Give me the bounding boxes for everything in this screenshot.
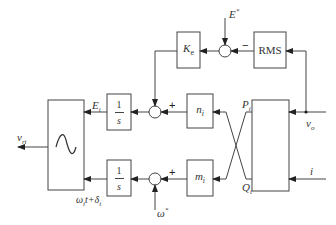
sum-top bbox=[219, 45, 231, 57]
e-ref-label: E* bbox=[229, 8, 239, 20]
p-i-label: Pi bbox=[242, 99, 251, 113]
int-bottom-den: s bbox=[117, 181, 121, 192]
power-calc-block bbox=[252, 100, 289, 191]
n-block: ni bbox=[187, 94, 213, 128]
minus-sign: − bbox=[242, 40, 248, 51]
m-block: mi bbox=[187, 160, 213, 196]
phase-label: ωit+δi bbox=[76, 195, 101, 208]
rms-label: RMS bbox=[258, 44, 281, 56]
m-sub: i bbox=[203, 177, 205, 186]
m-label: m bbox=[195, 170, 203, 182]
i-label: i bbox=[310, 166, 313, 177]
integrator-bottom: 1 s bbox=[107, 160, 131, 196]
e-i-label: Ei bbox=[92, 100, 101, 114]
ke-sub: e bbox=[190, 49, 194, 58]
int-top-den: s bbox=[117, 115, 121, 126]
plus-sign-bottom: + bbox=[169, 167, 175, 178]
rms-block: RMS bbox=[254, 32, 286, 68]
sum-mid bbox=[149, 106, 161, 118]
fraction-bar bbox=[115, 112, 124, 113]
n-sub: i bbox=[202, 110, 204, 119]
omega-ref-label: ω* bbox=[157, 207, 168, 219]
sum-bottom bbox=[149, 173, 161, 185]
int-bottom-num: 1 bbox=[117, 165, 122, 176]
fraction-bar bbox=[115, 178, 124, 179]
junction-dot bbox=[304, 110, 307, 113]
q-i-label: Qi bbox=[242, 182, 252, 196]
plus-sign-mid: + bbox=[169, 100, 175, 111]
ke-block: Ke bbox=[177, 32, 200, 68]
integrator-top: 1 s bbox=[107, 94, 131, 130]
sine-generator-block bbox=[48, 100, 84, 190]
v-ri-label: vri bbox=[17, 132, 27, 146]
v-o-label: vo bbox=[306, 118, 314, 132]
int-top-num: 1 bbox=[117, 99, 122, 110]
